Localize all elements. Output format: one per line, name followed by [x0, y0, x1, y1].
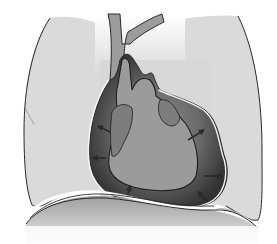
- illustration: Pericardial effusion compressing the hea…: [0, 0, 277, 244]
- heart-diagram: [0, 0, 277, 244]
